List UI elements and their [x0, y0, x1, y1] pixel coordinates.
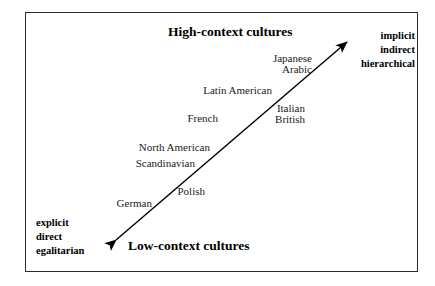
low-context-title: Low-context cultures [128, 239, 250, 253]
culture-label-north-american: North American [130, 142, 210, 153]
trait-direct: direct [36, 230, 84, 244]
culture-label-polish: Polish [165, 186, 205, 197]
diagram-canvas: High-context cultures Low-context cultur… [0, 0, 435, 286]
culture-label-british: British [255, 114, 305, 125]
trait-explicit: explicit [36, 216, 84, 230]
culture-label-scandinavian: Scandinavian [125, 158, 195, 169]
trait-implicit: implicit [361, 29, 415, 43]
high-context-traits: implicit indirect hierarchical [361, 29, 415, 71]
culture-label-latin-american: Latin American [192, 85, 272, 96]
trait-hierarchical: hierarchical [361, 57, 415, 71]
culture-label-arabic: Arabic [252, 64, 312, 75]
high-context-title: High-context cultures [168, 25, 293, 39]
culture-label-german: German [102, 198, 152, 209]
low-context-traits: explicit direct egalitarian [36, 216, 84, 258]
trait-indirect: indirect [361, 43, 415, 57]
trait-egalitarian: egalitarian [36, 244, 84, 258]
culture-label-french: French [178, 113, 218, 124]
